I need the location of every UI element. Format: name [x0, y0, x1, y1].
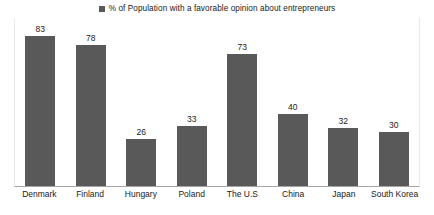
category-label-the-us: The U.S — [217, 190, 268, 199]
bar-poland[interactable] — [177, 126, 207, 186]
category-label-japan: Japan — [319, 190, 370, 199]
bar-slot-denmark: 83 — [15, 18, 66, 186]
bar-slot-china: 40 — [268, 18, 319, 186]
bar-the-us[interactable] — [227, 54, 257, 186]
category-label-poland: Poland — [166, 190, 217, 199]
bar-slot-poland: 33 — [167, 18, 218, 186]
category-label-denmark: Denmark — [14, 190, 65, 199]
category-label-finland: Finland — [65, 190, 116, 199]
bar-denmark[interactable] — [25, 36, 55, 186]
bar-japan[interactable] — [328, 128, 358, 186]
bar-group: 83 78 26 33 73 40 — [15, 18, 419, 186]
plot-area: 83 78 26 33 73 40 — [14, 18, 420, 187]
bar-value-denmark: 83 — [15, 25, 66, 34]
bar-value-finland: 78 — [66, 34, 117, 43]
bar-slot-south-korea: 30 — [369, 18, 420, 186]
category-label-hungary: Hungary — [116, 190, 167, 199]
bar-slot-hungary: 26 — [116, 18, 167, 186]
bar-value-china: 40 — [268, 103, 319, 112]
category-label-china: China — [268, 190, 319, 199]
bar-value-the-us: 73 — [217, 43, 268, 52]
bar-slot-japan: 32 — [318, 18, 369, 186]
bar-hungary[interactable] — [126, 139, 156, 186]
bar-finland[interactable] — [76, 45, 106, 186]
category-axis: Denmark Finland Hungary Poland The U.S C… — [14, 190, 420, 210]
bar-value-south-korea: 30 — [369, 121, 420, 130]
bar-slot-the-us: 73 — [217, 18, 268, 186]
bar-slot-finland: 78 — [66, 18, 117, 186]
bar-value-poland: 33 — [167, 115, 218, 124]
bar-china[interactable] — [278, 114, 308, 186]
bar-value-hungary: 26 — [116, 128, 167, 137]
legend-label: % of Population with a favorable opinion… — [109, 5, 336, 13]
bar-south-korea[interactable] — [379, 132, 409, 186]
legend-square-marker-icon — [99, 6, 105, 12]
category-label-south-korea: South Korea — [369, 190, 420, 199]
bar-value-japan: 32 — [318, 117, 369, 126]
chart-legend: % of Population with a favorable opinion… — [0, 2, 434, 16]
bar-chart: % of Population with a favorable opinion… — [0, 0, 434, 215]
